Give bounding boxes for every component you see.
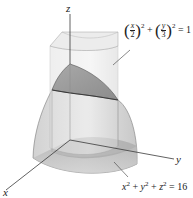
cylinder-top: [50, 32, 118, 51]
diagram-canvas: z x y (x2)2 + (y3)2 = 1 x2 + y2 + z2 = 1…: [0, 0, 193, 198]
y-axis-label: y: [176, 153, 181, 165]
x-axis-label: x: [3, 186, 8, 198]
sphere-equation: x2 + y2 + z2 = 16: [122, 180, 187, 192]
z-axis-label: z: [66, 2, 70, 14]
elliptic-cylinder: [50, 46, 118, 155]
cylinder-equation: (x2)2 + (y3)2 = 1: [124, 22, 191, 39]
